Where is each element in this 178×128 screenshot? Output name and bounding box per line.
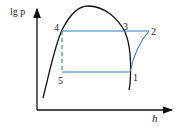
diagram-canvas	[0, 0, 178, 128]
point-label-3: 3	[123, 22, 128, 32]
point-label-4: 4	[54, 23, 59, 33]
point-label-1: 1	[133, 73, 138, 83]
y-axis-label: lg p	[10, 7, 25, 17]
x-axis-label: h	[152, 113, 158, 124]
point-label-2: 2	[151, 27, 156, 37]
point-label-5: 5	[58, 76, 63, 86]
saturation-curve	[43, 6, 130, 98]
lgp-h-diagram: lg p h 4 3 2 1 5	[0, 0, 178, 128]
cycle-line-2-1	[130, 31, 149, 72]
